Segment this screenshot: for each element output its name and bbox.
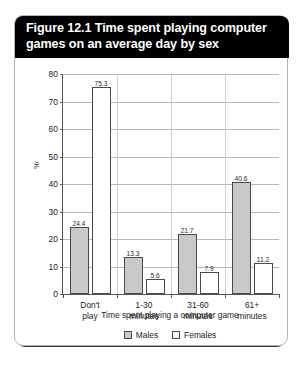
- y-tick-mark: [60, 239, 63, 240]
- y-tick-label: 30: [49, 207, 58, 217]
- y-tick-label: 50: [49, 152, 58, 162]
- legend-swatch-males-icon: [124, 331, 132, 339]
- y-tick-label: 40: [49, 179, 58, 189]
- x-axis-title: Time spent playing a computer game: [62, 310, 278, 320]
- y-tick-mark: [60, 157, 63, 158]
- bar-value-label: 75.3: [95, 80, 108, 87]
- bar-value-label: 40.6: [235, 175, 248, 182]
- y-tick-mark: [60, 267, 63, 268]
- y-tick-mark: [60, 102, 63, 103]
- bar-value-label: 5.6: [150, 272, 159, 279]
- bar-females-2[interactable]: 7.9: [200, 272, 219, 294]
- legend-label-males: Males: [136, 330, 158, 340]
- x-category-label-line: Don't: [80, 300, 99, 311]
- bar-group: 13.35.6: [124, 74, 165, 294]
- y-tick-mark: [60, 129, 63, 130]
- y-tick-label: 10: [49, 262, 58, 272]
- y-tick-label: 80: [49, 69, 58, 79]
- bar-value-label: 24.4: [73, 220, 86, 227]
- legend-item-females[interactable]: Females: [172, 330, 216, 340]
- page-title: Figure 12.1 Time spent playing computer …: [26, 21, 279, 52]
- bar-group: 40.611.2: [232, 74, 273, 294]
- bar-group: 24.475.3: [70, 74, 111, 294]
- x-category-label-line: 1-30: [129, 300, 158, 311]
- legend-label-females: Females: [184, 330, 216, 340]
- y-tick-mark: [60, 212, 63, 213]
- y-tick-label: 60: [49, 124, 58, 134]
- bar-males-0[interactable]: 24.4: [70, 227, 89, 294]
- bar-females-3[interactable]: 11.2: [254, 263, 273, 294]
- bar-females-1[interactable]: 5.6: [146, 279, 165, 294]
- y-tick-mark: [60, 74, 63, 75]
- chart-legend: Males Females: [62, 330, 278, 340]
- bar-males-2[interactable]: 21.7: [178, 234, 197, 294]
- bar-females-0[interactable]: 75.3: [92, 87, 111, 294]
- bar-value-label: 11.2: [257, 256, 269, 263]
- bar-value-label: 13.3: [127, 250, 140, 257]
- x-tick-mark: [63, 294, 64, 298]
- figure-card: Figure 12.1 Time spent playing computer …: [14, 15, 288, 346]
- bar-group: 21.77.9: [178, 74, 219, 294]
- bar-males-1[interactable]: 13.3: [124, 257, 143, 294]
- y-tick-label: 70: [49, 97, 58, 107]
- plot-area: 0102030405060708024.475.3Don'tplay13.35.…: [62, 74, 279, 295]
- bar-value-label: 21.7: [181, 227, 194, 234]
- x-category-label-line: 61+: [237, 300, 266, 311]
- y-tick-label: 20: [49, 234, 58, 244]
- x-category-label-line: 31-60: [183, 300, 212, 311]
- figure-title-bar: Figure 12.1 Time spent playing computer …: [15, 16, 289, 58]
- x-tick-mark: [117, 294, 118, 298]
- chart-body: % 0102030405060708024.475.3Don'tplay13.3…: [15, 58, 289, 346]
- group-separator: [225, 74, 226, 294]
- x-tick-mark: [225, 294, 226, 298]
- bar-males-3[interactable]: 40.6: [232, 182, 251, 294]
- x-tick-mark: [279, 294, 280, 298]
- y-tick-label: 0: [53, 289, 58, 299]
- group-separator: [117, 74, 118, 294]
- group-separator: [171, 74, 172, 294]
- legend-swatch-females-icon: [172, 331, 180, 339]
- y-axis-title: %: [32, 162, 41, 169]
- x-tick-mark: [171, 294, 172, 298]
- y-tick-mark: [60, 184, 63, 185]
- legend-item-males[interactable]: Males: [124, 330, 158, 340]
- bar-value-label: 7.9: [204, 265, 213, 272]
